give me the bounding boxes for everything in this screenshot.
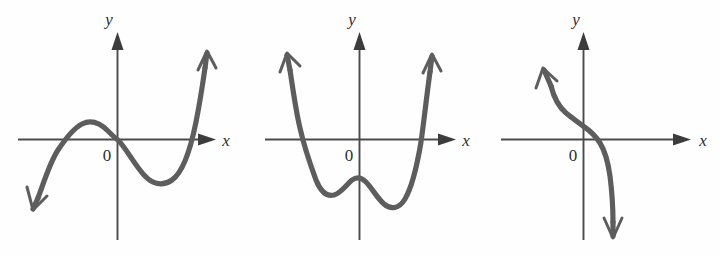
y-axis-label-b: y — [346, 10, 356, 29]
origin-label-c: 0 — [569, 146, 578, 165]
y-axis-arrowhead-c — [578, 32, 590, 50]
x-axis-arrowhead-b — [438, 134, 456, 146]
y-axis-arrowhead-b — [354, 32, 366, 50]
y-axis-arrowhead-a — [112, 32, 124, 50]
origin-label-b: 0 — [345, 146, 354, 165]
origin-label-a: 0 — [103, 146, 112, 165]
cubic-curve-c — [551, 86, 613, 222]
y-axis-label-a: y — [103, 10, 113, 29]
graph-panel-c: y x 0 — [481, 0, 721, 256]
graph-panel-a: y x 0 — [0, 0, 240, 256]
x-axis-label-a: x — [221, 131, 230, 150]
x-axis-label-c: x — [698, 131, 707, 150]
graph-panel-b: y x 0 — [240, 0, 480, 256]
x-axis-arrowhead-c — [673, 134, 691, 146]
curve-arrow-shaft-up-left-b — [287, 55, 290, 70]
y-axis-label-c: y — [570, 10, 580, 29]
cubic-curve-a — [38, 68, 205, 198]
curve-arrow-shaft-up-right-b — [430, 56, 432, 72]
polynomial-graphs-figure: y x 0 y x 0 — [0, 0, 721, 256]
curve-arrow-shaft-up-right-a — [205, 53, 207, 68]
x-axis-arrowhead-a — [198, 134, 216, 146]
x-axis-label-b: x — [461, 131, 470, 150]
curve-arrow-shaft-up-left-c — [544, 70, 551, 86]
